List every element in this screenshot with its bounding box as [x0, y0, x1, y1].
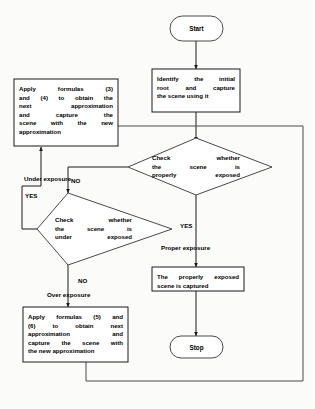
edge-label-no-over: NO — [78, 277, 87, 284]
node-properly-exposed-captured — [152, 267, 244, 291]
node-apply-5-6 — [23, 307, 128, 362]
edge-label-under-exposure: Under exposure — [24, 175, 71, 182]
node-apply-3-4 — [14, 79, 118, 146]
edge-label-over-exposure: Over exposure — [47, 291, 90, 298]
flowchart-canvas — [0, 0, 315, 409]
edge-label-yes-under: YES — [25, 192, 37, 199]
edge-label-no-to-under-check: NO — [71, 177, 80, 184]
node-identify-root — [152, 69, 240, 112]
node-start — [170, 16, 223, 41]
node-check-properly-exposed — [128, 138, 272, 195]
edge-label-proper-exposure: Proper exposure — [161, 244, 210, 251]
node-check-under-exposed — [37, 193, 172, 265]
node-stop — [170, 336, 223, 358]
edge-label-yes-proper: YES — [180, 222, 192, 229]
